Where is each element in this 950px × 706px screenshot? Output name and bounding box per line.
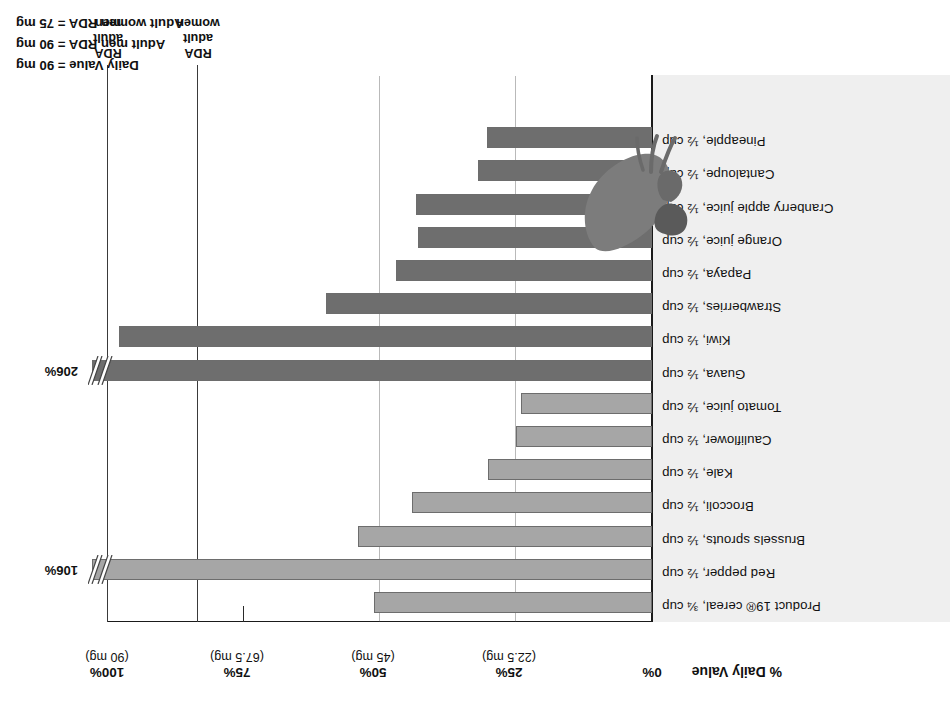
x-tick-25: 25% (22.5 mg) [474, 649, 544, 680]
bar-brussels-sprouts [358, 526, 652, 547]
category-label: Tomato juice, ½ cup [662, 400, 944, 415]
x-tick-100-percent: 100% [90, 665, 124, 680]
table-row: Cantaloupe, ½ cup [0, 154, 950, 187]
legend: Daily Value = 90 mg Adult men RDA = 90 m… [16, 13, 184, 76]
category-label: Brussels sprouts, ½ cup [662, 533, 944, 548]
table-row: Kiwi, ½ cup [0, 320, 950, 353]
axis-title: % Daily Value [692, 664, 782, 680]
bar-strawberries [326, 293, 652, 314]
axis-top-rule [107, 621, 653, 622]
table-row: 206% Guava, ½ cup [0, 353, 950, 386]
category-label: Cranberry apple juice, ½ cup [662, 201, 944, 216]
legend-item-adult-men-rda: Adult men RDA = 90 mg [16, 34, 184, 55]
category-label: Cauliflower, ½ cup [662, 433, 944, 448]
table-row: Orange juice, ½ cup [0, 221, 950, 254]
table-row: 106% Red pepper, ½ cup [0, 553, 950, 586]
x-tick-75-mg: (67.5 mg) [202, 649, 272, 665]
bar-cauliflower [516, 426, 652, 447]
bar-kale [489, 459, 653, 480]
x-tick-75-percent: 75% [224, 665, 251, 680]
category-label: Strawberries, ½ cup [662, 300, 944, 315]
x-tick-25-mg: (22.5 mg) [474, 649, 544, 665]
value-label-guava: 206% [45, 364, 78, 379]
bar-kiwi [119, 326, 652, 347]
table-row: Cranberry apple juice, ½ cup [0, 187, 950, 220]
x-tick-25-percent: 25% [496, 665, 523, 680]
table-row: Strawberries, ½ cup [0, 287, 950, 320]
legend-item-adult-women-rda: Adult women RDA = 75 mg [16, 13, 184, 34]
table-row: Broccoli, ½ cup [0, 486, 950, 519]
category-label: Red pepper, ½ cup [662, 566, 944, 581]
legend-item-daily-value: Daily Value = 90 mg [16, 55, 184, 76]
x-tick-100: 100% (90 mg) [71, 649, 143, 680]
strawberry-illustration-icon [577, 132, 695, 254]
x-tick-100-mg: (90 mg) [71, 649, 143, 665]
x-tick-50: 50% (45 mg) [338, 649, 408, 680]
table-row: Pineapple, ½ cup [0, 121, 950, 154]
category-label: Cantaloupe, ½ cup [662, 167, 944, 182]
table-row: Tomato juice, ½ cup [0, 387, 950, 420]
bar-red-pepper [92, 559, 652, 580]
table-row: Cauliflower, ½ cup [0, 420, 950, 453]
category-label: Kiwi, ½ cup [662, 333, 944, 348]
category-label: Papaya, ½ cup [662, 267, 944, 282]
category-label: Broccoli, ½ cup [662, 499, 944, 514]
table-row: Product 19® cereal, ¾ cup [0, 586, 950, 619]
category-label: Product 19® cereal, ¾ cup [662, 599, 944, 614]
value-label-red-pepper: 106% [45, 563, 78, 578]
table-row: Kale, ½ cup [0, 453, 950, 486]
category-label: Pineapple, ½ cup [662, 134, 944, 149]
bar-tomato-juice [522, 393, 653, 414]
category-label: Kale, ½ cup [662, 466, 944, 481]
bar-papaya [396, 260, 652, 281]
bar-guava [92, 360, 652, 381]
x-tick-50-percent: 50% [360, 665, 387, 680]
x-tick-50-mg: (45 mg) [338, 649, 408, 665]
x-tick-75: 75% (67.5 mg) [202, 649, 272, 680]
category-label: Orange juice, ½ cup [662, 234, 944, 249]
x-tick-0: 0% [622, 665, 682, 681]
table-row: Papaya, ½ cup [0, 254, 950, 287]
bar-broccoli [413, 492, 653, 513]
category-label: Guava, ½ cup [662, 367, 944, 382]
vitamin-c-bar-chart-figure: % Daily Value 0% 25% (22.5 mg) 50% (45 m… [0, 0, 950, 706]
table-row: Brussels sprouts, ½ cup [0, 519, 950, 552]
x-tick-0-percent: 0% [642, 665, 661, 680]
bar-product-19-cereal [375, 592, 653, 613]
